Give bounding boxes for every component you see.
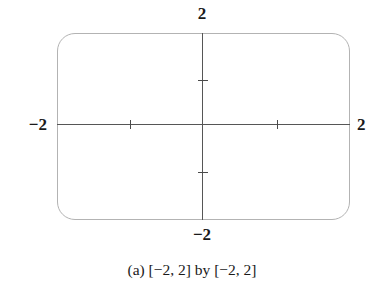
graphing-window-figure: 2 −2 −2 2 (a) [−2, 2] by [−2, 2] [0, 0, 384, 288]
y-axis-tick-positive-one [198, 80, 208, 81]
viewing-window-box [57, 33, 350, 220]
x-axis-max-label: 2 [357, 116, 366, 133]
x-axis-tick-negative-one [130, 120, 131, 129]
y-axis-line [202, 33, 203, 220]
x-axis-line [57, 124, 350, 125]
y-axis-max-label: 2 [198, 5, 207, 22]
y-axis-min-label: −2 [193, 226, 211, 243]
y-axis-tick-negative-one [198, 172, 208, 173]
x-axis-min-label: −2 [29, 116, 47, 133]
figure-caption: (a) [−2, 2] by [−2, 2] [0, 261, 384, 280]
x-axis-tick-positive-one [277, 120, 278, 129]
